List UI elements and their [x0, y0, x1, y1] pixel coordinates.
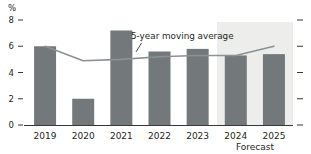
x-axis-category-labels: 2019202020212022202320242025 [34, 131, 286, 141]
bar-2020 [72, 99, 94, 125]
x-axis-label-2024: 2024 [224, 131, 247, 141]
x-axis-label-2023: 2023 [186, 131, 209, 141]
x-axis-label-2019: 2019 [34, 131, 57, 141]
bar-2023 [187, 49, 209, 125]
y-tick-label-0: 0 [9, 120, 14, 130]
bar-2025 [263, 54, 285, 125]
x-axis-label-2021: 2021 [110, 131, 133, 141]
y-axis-ticks-right [297, 20, 303, 125]
y-axis-unit-label: % [8, 3, 16, 13]
y-axis-ticks-left [18, 20, 23, 125]
y-axis-labels-left: 02468 [9, 15, 14, 130]
bar-2019 [34, 46, 56, 125]
bar-2024 [225, 55, 247, 125]
moving-average-annotation-label: 5-year moving average [131, 31, 234, 41]
x-axis-label-2020: 2020 [72, 131, 95, 141]
bar-2021 [110, 31, 132, 126]
x-axis-label-2022: 2022 [148, 131, 171, 141]
chart-container: 02468 % 2019202020212022202320242025 5-y… [0, 0, 311, 154]
bar-chart-with-moving-average: 02468 % 2019202020212022202320242025 5-y… [0, 0, 311, 154]
y-tick-label-4: 4 [9, 68, 14, 78]
y-tick-label-2: 2 [9, 94, 14, 104]
x-axis-label-2025: 2025 [262, 131, 285, 141]
y-tick-label-6: 6 [9, 41, 14, 51]
forecast-label: Forecast [236, 142, 275, 152]
bar-2022 [149, 52, 171, 126]
annotation-leader-line [136, 43, 142, 52]
y-tick-label-8: 8 [9, 15, 14, 25]
